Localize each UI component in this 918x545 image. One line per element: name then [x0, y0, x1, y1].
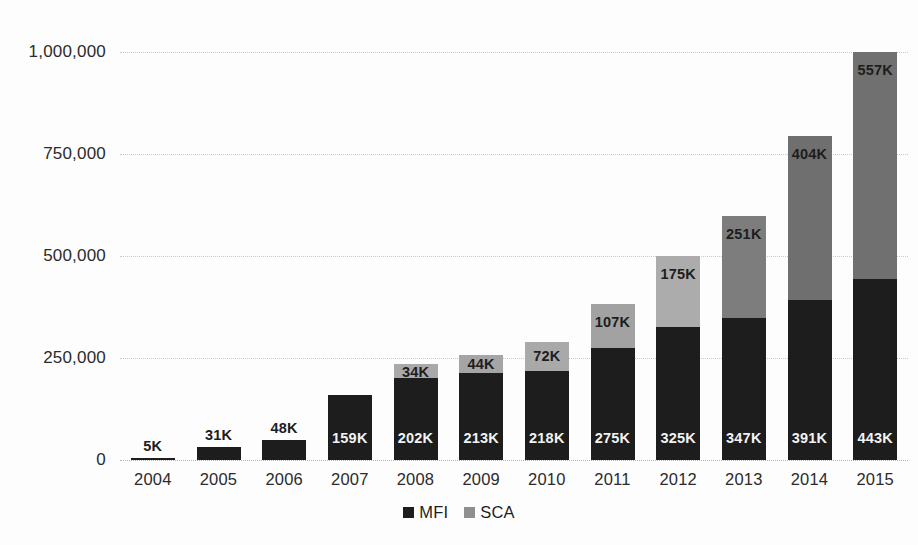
bar-group[interactable]: 325K175K	[656, 256, 700, 460]
x-axis-tick-label: 2012	[659, 470, 697, 489]
legend-label: MFI	[419, 503, 448, 522]
bar-value-label-sca: 175K	[656, 266, 700, 282]
x-axis-tick-label: 2015	[856, 470, 894, 489]
bar-value-label-mfi: 443K	[853, 430, 897, 446]
legend-label: SCA	[480, 503, 515, 522]
bar-value-label-mfi: 391K	[788, 430, 832, 446]
bar-value-label-sca: 404K	[788, 146, 832, 162]
bar-group[interactable]: 48K	[262, 440, 306, 460]
bar-group[interactable]: 5K	[131, 458, 175, 460]
x-axis-tick-label: 2006	[265, 470, 303, 489]
bar-segment-mfi[interactable]: 202K	[394, 378, 438, 460]
bar-segment-sca[interactable]: 557K	[853, 52, 897, 279]
x-axis-tick-label: 2005	[200, 470, 238, 489]
bar-value-label-mfi: 347K	[722, 430, 766, 446]
bar-value-label-mfi: 218K	[525, 430, 569, 446]
bar-group[interactable]: 443K557K	[853, 52, 897, 460]
bar-value-label-mfi: 202K	[394, 430, 438, 446]
legend-swatch-icon	[403, 507, 414, 518]
bar-segment-mfi[interactable]: 159K	[328, 395, 372, 460]
x-axis-tick-label: 2011	[594, 470, 630, 489]
bar-segment-sca[interactable]: 44K	[459, 355, 503, 373]
bar-value-label-sca: 34K	[394, 364, 438, 380]
bar-value-label-mfi: 31K	[197, 427, 241, 443]
x-axis-tick-label: 2010	[528, 470, 566, 489]
bar-group[interactable]: 347K251K	[722, 216, 766, 460]
bar-segment-mfi[interactable]: 218K	[525, 371, 569, 460]
x-axis-tick-label: 2013	[725, 470, 763, 489]
bar-group[interactable]: 275K107K	[591, 304, 635, 460]
bar-group[interactable]: 218K72K	[525, 342, 569, 460]
y-axis-tick-label: 1,000,000	[29, 42, 106, 62]
y-axis-tick-label: 750,000	[43, 144, 106, 164]
bar-segment-sca[interactable]: 175K	[656, 256, 700, 327]
bar-value-label-mfi: 213K	[459, 430, 503, 446]
bar-segment-mfi[interactable]: 275K	[591, 348, 635, 460]
y-axis: 0250,000500,000750,0001,000,000	[0, 0, 120, 545]
x-axis-tick-label: 2008	[397, 470, 435, 489]
bar-group[interactable]: 159K	[328, 395, 372, 460]
chart-legend: MFISCA	[0, 503, 918, 522]
x-axis-tick-label: 2009	[462, 470, 500, 489]
bar-group[interactable]: 31K	[197, 447, 241, 460]
bar-value-label-sca: 557K	[853, 62, 897, 78]
bar-segment-mfi[interactable]: 391K	[788, 300, 832, 460]
x-axis-tick-label: 2014	[791, 470, 829, 489]
bar-value-label-sca: 72K	[525, 348, 569, 364]
y-axis-tick-label: 500,000	[43, 246, 106, 266]
bar-value-label-sca: 44K	[459, 356, 503, 372]
bar-value-label-sca: 107K	[591, 314, 635, 330]
bar-value-label-mfi: 5K	[131, 438, 175, 454]
bar-segment-sca[interactable]: 404K	[788, 136, 832, 301]
stacked-bar-chart: 0250,000500,000750,0001,000,000 5K31K48K…	[0, 0, 918, 545]
bar-group[interactable]: 391K404K	[788, 136, 832, 460]
bar-segment-mfi[interactable]: 347K	[722, 318, 766, 460]
bar-group[interactable]: 202K34K	[394, 364, 438, 460]
bar-value-label-mfi: 159K	[328, 430, 372, 446]
gridline-0	[120, 460, 908, 461]
legend-swatch-icon	[464, 507, 475, 518]
bar-segment-mfi[interactable]: 31K	[197, 447, 241, 460]
bar-segment-sca[interactable]: 72K	[525, 342, 569, 371]
y-axis-tick-label: 0	[96, 450, 106, 470]
bar-segment-mfi[interactable]: 48K	[262, 440, 306, 460]
bar-value-label-mfi: 48K	[262, 420, 306, 436]
legend-item-sca[interactable]: SCA	[464, 503, 515, 522]
bar-value-label-sca: 251K	[722, 226, 766, 242]
y-axis-tick-label: 250,000	[43, 348, 106, 368]
bars-container: 5K31K48K159K202K34K213K44K218K72K275K107…	[120, 52, 908, 460]
x-axis-tick-label: 2004	[134, 470, 172, 489]
bar-segment-sca[interactable]: 251K	[722, 216, 766, 318]
x-axis: 2004200520062007200820092010201120122013…	[120, 470, 908, 498]
bar-segment-mfi[interactable]: 5K	[131, 458, 175, 460]
legend-item-mfi[interactable]: MFI	[403, 503, 448, 522]
bar-segment-mfi[interactable]: 443K	[853, 279, 897, 460]
plot-area: 5K31K48K159K202K34K213K44K218K72K275K107…	[120, 52, 908, 460]
bar-group[interactable]: 213K44K	[459, 355, 503, 460]
bar-segment-sca[interactable]: 107K	[591, 304, 635, 348]
bar-segment-sca[interactable]: 34K	[394, 364, 438, 378]
x-axis-tick-label: 2007	[331, 470, 369, 489]
bar-segment-mfi[interactable]: 325K	[656, 327, 700, 460]
bar-value-label-mfi: 275K	[591, 430, 635, 446]
bar-segment-mfi[interactable]: 213K	[459, 373, 503, 460]
bar-value-label-mfi: 325K	[656, 430, 700, 446]
